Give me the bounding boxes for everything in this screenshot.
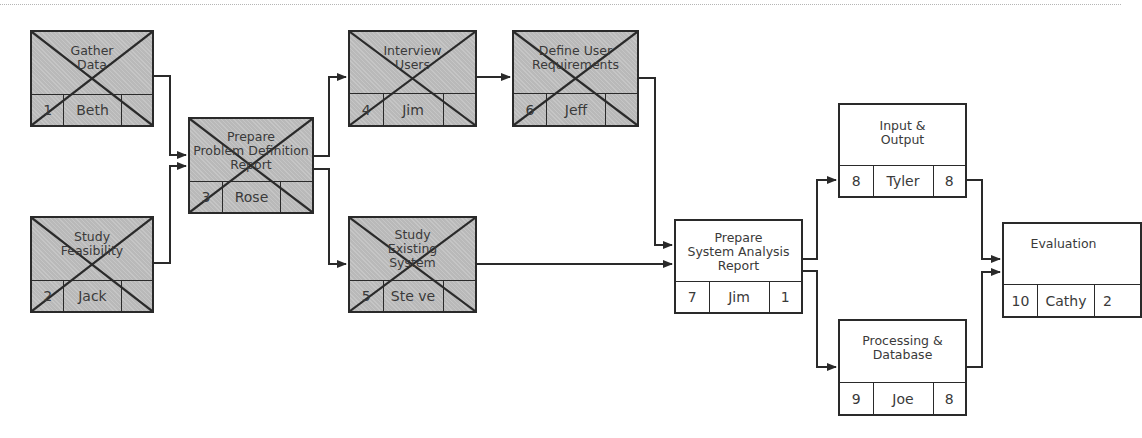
- task-duration: [121, 281, 152, 311]
- task-title: Processing &Database: [840, 321, 965, 362]
- task-node-study-existing-system[interactable]: StudyExistingSystem 5 Ste ve: [348, 216, 477, 313]
- task-number: 1: [32, 95, 63, 125]
- task-info-row: 7 Jim 1: [676, 281, 801, 312]
- task-node-define-user-requirements[interactable]: Define UserRequirements 6 Jeff: [512, 30, 639, 127]
- task-assignee: Tyler: [873, 166, 933, 196]
- task-title: GatherData: [32, 32, 152, 72]
- task-info-row: 4 Jim: [350, 93, 475, 125]
- task-node-prepare-system-analysis-report[interactable]: PrepareSystem AnalysisReport 7 Jim 1: [674, 219, 803, 314]
- task-duration: 1: [769, 282, 802, 312]
- task-number: 7: [676, 282, 709, 312]
- task-number: 3: [190, 182, 222, 212]
- task-number: 4: [350, 94, 383, 125]
- task-assignee: Jeff: [546, 94, 605, 125]
- task-duration: [443, 281, 476, 311]
- task-number: 6: [514, 94, 546, 125]
- task-title: Input &Output: [840, 105, 965, 147]
- edge-7-9: [802, 271, 836, 367]
- task-title: InterviewUsers: [350, 32, 475, 72]
- edge-8-10: [966, 180, 1000, 259]
- task-info-row: 3 Rose: [190, 181, 312, 212]
- task-duration: 2: [1094, 285, 1140, 316]
- task-number: 8: [840, 166, 873, 196]
- task-assignee: Joe: [873, 383, 933, 414]
- task-assignee: Jim: [383, 94, 443, 125]
- edge-3-5: [313, 169, 346, 264]
- task-assignee: Jim: [709, 282, 769, 312]
- task-info-row: 6 Jeff: [514, 93, 637, 125]
- task-info-row: 8 Tyler 8: [840, 165, 965, 196]
- task-node-input-output[interactable]: Input &Output 8 Tyler 8: [838, 103, 967, 198]
- task-number: 10: [1004, 285, 1037, 316]
- task-assignee: Jack: [63, 281, 121, 311]
- task-title: Define UserRequirements: [514, 32, 637, 72]
- task-assignee: Cathy: [1037, 285, 1094, 316]
- task-assignee: Ste ve: [383, 281, 443, 311]
- task-duration: [443, 94, 476, 125]
- task-info-row: 5 Ste ve: [350, 280, 475, 311]
- task-title: PrepareSystem AnalysisReport: [676, 221, 801, 273]
- task-duration: [121, 95, 152, 125]
- task-title: PrepareProblem DefinitionReport: [190, 119, 312, 172]
- edge-6-7: [638, 78, 672, 245]
- task-node-prepare-problem-definition-report[interactable]: PrepareProblem DefinitionReport 3 Rose: [188, 117, 314, 214]
- task-title: StudyExistingSystem: [350, 218, 475, 270]
- task-duration: [280, 182, 312, 212]
- task-duration: [605, 94, 637, 125]
- task-info-row: 1 Beth: [32, 94, 152, 125]
- task-node-study-feasibility[interactable]: StudyFeasibility 2 Jack: [30, 216, 154, 313]
- task-number: 9: [840, 383, 873, 414]
- task-assignee: Rose: [222, 182, 281, 212]
- task-number: 2: [32, 281, 63, 311]
- edge-3-4: [313, 77, 346, 156]
- task-duration: 8: [933, 383, 966, 414]
- task-info-row: 2 Jack: [32, 280, 152, 311]
- task-node-processing-database[interactable]: Processing &Database 9 Joe 8: [838, 319, 967, 416]
- edge-7-8: [802, 180, 836, 259]
- edge-9-10: [966, 272, 1000, 367]
- task-assignee: Beth: [63, 95, 121, 125]
- task-duration: 8: [933, 166, 966, 196]
- task-node-interview-users[interactable]: InterviewUsers 4 Jim: [348, 30, 477, 127]
- task-title: StudyFeasibility: [32, 218, 152, 258]
- task-info-row: 9 Joe 8: [840, 382, 965, 414]
- task-node-evaluation[interactable]: Evaluation 10 Cathy 2: [1002, 222, 1142, 318]
- task-node-gather-data[interactable]: GatherData 1 Beth: [30, 30, 154, 127]
- edge-2-3: [153, 166, 186, 263]
- task-number: 5: [350, 281, 383, 311]
- edge-1-3: [153, 76, 186, 155]
- task-info-row: 10 Cathy 2: [1004, 284, 1140, 316]
- task-title: Evaluation: [1004, 224, 1123, 251]
